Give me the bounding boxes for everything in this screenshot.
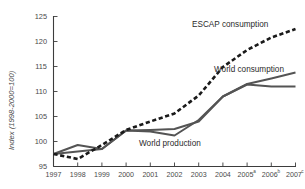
y-tick-label: 100 <box>35 137 47 146</box>
x-tick-superscript: c <box>301 169 304 174</box>
y-axis-tick-labels: 95 100 105 110 115 120 125 <box>35 12 47 171</box>
x-tick-label-group-2007: 2007 c <box>286 169 304 179</box>
x-tick-label: 1997 <box>46 171 62 179</box>
x-tick-label-group-2006: 2006 b <box>262 169 281 179</box>
x-tick-label: 2007 <box>286 171 302 179</box>
x-tick-label: 2006 <box>262 171 278 179</box>
y-tick-label: 120 <box>35 37 47 46</box>
x-tick-superscript: a <box>253 169 256 174</box>
x-tick-label: 2004 <box>215 171 231 179</box>
y-tick-label: 95 <box>39 162 47 171</box>
series-label-escap-consumption: ESCAP consumption <box>192 20 269 29</box>
x-tick-label: 2000 <box>118 171 134 179</box>
x-tick-label-group-2005: 2005 a <box>238 169 257 179</box>
series-label-world-production: World production <box>139 139 201 148</box>
y-tick-label: 105 <box>35 112 47 121</box>
x-tick-label: 2003 <box>191 171 207 179</box>
line-chart: Index (1998-2000=100) 95 100 105 110 115… <box>0 0 305 189</box>
y-tick-label: 125 <box>35 12 47 21</box>
y-tick-label: 115 <box>35 62 47 71</box>
y-axis-title: Index (1998-2000=100) <box>7 70 16 150</box>
x-axis-tick-labels: 1997 1998 1999 2000 2001 2002 2003 2004 … <box>46 169 305 179</box>
x-tick-label: 1998 <box>70 171 86 179</box>
y-tick-label: 110 <box>35 87 47 96</box>
y-axis <box>54 16 58 167</box>
x-tick-label: 1999 <box>94 171 110 179</box>
chart-container: Index (1998-2000=100) 95 100 105 110 115… <box>0 0 305 189</box>
y-axis-title-text: Index (1998-2000=100) <box>7 70 16 150</box>
x-axis <box>54 163 297 167</box>
x-tick-label: 2002 <box>167 171 183 179</box>
x-tick-label: 2005 <box>238 171 254 179</box>
x-tick-label: 2001 <box>142 171 158 179</box>
x-tick-superscript: b <box>277 169 280 174</box>
series-label-world-consumption: World consumption <box>214 65 284 74</box>
